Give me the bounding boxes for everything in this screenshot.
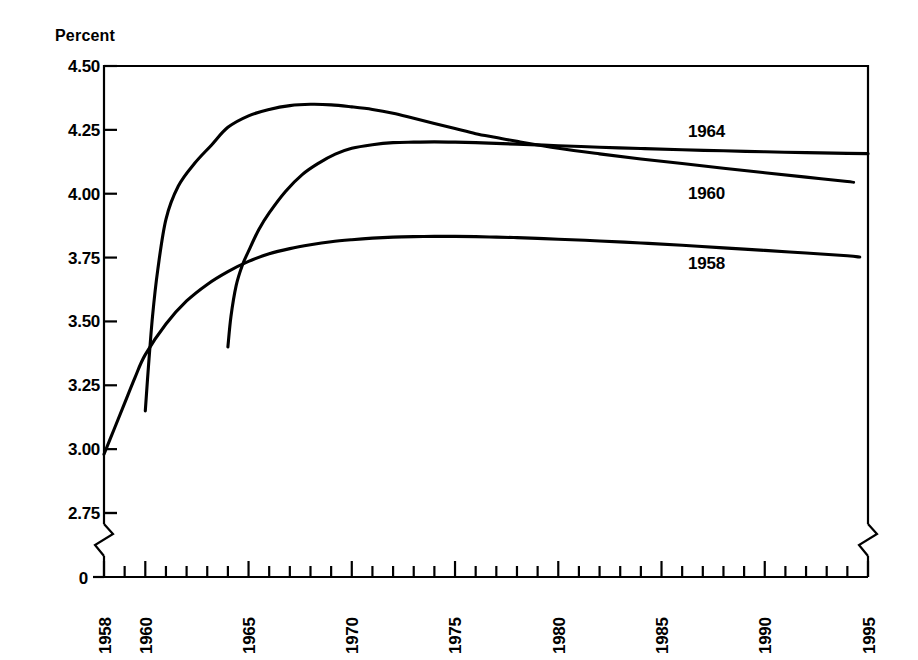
axis-break-zigzag: [95, 524, 113, 556]
axis-break-zigzag: [859, 524, 877, 556]
series-line-1958: [104, 236, 860, 454]
plot-area: [0, 0, 918, 660]
chart-container: Percent 4.50 4.25 4.00 3.75 3.50 3.25 3.…: [0, 0, 918, 660]
series-layer: [104, 104, 868, 454]
